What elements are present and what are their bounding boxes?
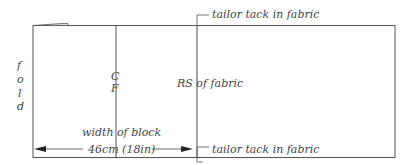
fold-label-f: f [17, 60, 21, 71]
width-of-block-label: width of block [82, 127, 161, 138]
fold-label-l: l [18, 88, 22, 99]
tailor-tack-bottom-label: tailor tack in fabric [212, 144, 319, 155]
arrowhead-left-icon [34, 146, 46, 152]
fold-label-d: d [17, 101, 24, 112]
tack-bottom-leader [197, 147, 209, 158]
selvedge-wedge [33, 24, 68, 26]
tack-top-leader [197, 15, 209, 25]
arrowhead-right-icon [181, 146, 193, 152]
measurement-label: 46cm (18in) [88, 144, 155, 155]
rs-of-fabric-label: RS of fabric [177, 78, 243, 89]
centre-front-label-c: C [111, 71, 119, 82]
centre-front-label-f: F [111, 83, 119, 94]
tailor-tack-top-label: tailor tack in fabric [212, 9, 319, 20]
fold-label-o: o [17, 74, 24, 85]
tack-bottom-leader-ext [197, 158, 209, 164]
